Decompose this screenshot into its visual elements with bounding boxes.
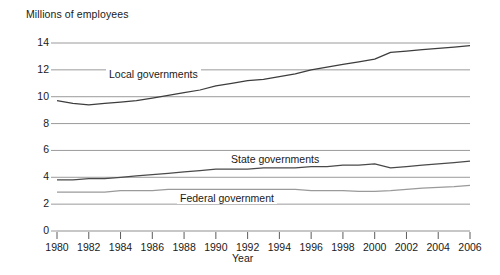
- y-tick-label: 6: [27, 144, 49, 155]
- x-tick-label: 2004: [420, 242, 456, 253]
- x-tick-label: 1998: [325, 242, 361, 253]
- x-tick-label: 1984: [103, 242, 139, 253]
- x-tick-label: 1988: [166, 242, 202, 253]
- x-axis-title: Year: [232, 252, 253, 264]
- x-tick-label: 2000: [357, 242, 393, 253]
- series-label: State governments: [228, 153, 322, 165]
- y-tick-label: 4: [27, 171, 49, 182]
- x-tick-marks-group: [57, 232, 470, 239]
- y-tick-label: 12: [27, 64, 49, 75]
- y-tick-label: 2: [27, 198, 49, 209]
- x-tick-label: 1996: [293, 242, 329, 253]
- chart-plot-area: [0, 0, 500, 275]
- x-tick-label: 1994: [261, 242, 297, 253]
- y-tick-label: 10: [27, 91, 49, 102]
- x-tick-label: 1980: [39, 242, 75, 253]
- chart-container: Millions of employees 02468101214 198019…: [0, 0, 500, 275]
- x-tick-label: 1986: [134, 242, 170, 253]
- x-tick-label: 1990: [198, 242, 234, 253]
- y-tick-label: 8: [27, 118, 49, 129]
- series-label: Federal government: [177, 192, 277, 204]
- x-tick-label: 2002: [388, 242, 424, 253]
- series-label: Local governments: [106, 68, 201, 80]
- x-tick-label: 1982: [71, 242, 107, 253]
- y-tick-label: 14: [27, 37, 49, 48]
- y-tick-label: 0: [27, 225, 49, 236]
- x-tick-label: 2006: [452, 242, 488, 253]
